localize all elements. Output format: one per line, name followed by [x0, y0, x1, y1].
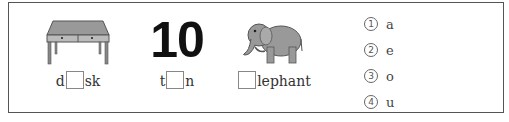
answer-blank[interactable]	[238, 71, 256, 89]
word-ten: tn	[122, 71, 232, 89]
choice-list: 1a 2e 3o 4u	[364, 11, 394, 115]
choice-u[interactable]: 4u	[364, 89, 394, 115]
word-desk: dsk	[23, 71, 133, 89]
choice-a[interactable]: 1a	[364, 11, 394, 37]
word-elephant: lephant	[219, 71, 329, 89]
question-box: dsk 10 tn lephant 1a 2e 3o 4u	[8, 2, 504, 113]
item-ten: 10 tn	[122, 3, 232, 112]
number-ten: 10	[122, 13, 232, 67]
answer-blank[interactable]	[166, 71, 184, 89]
choice-o[interactable]: 3o	[364, 63, 394, 89]
elephant-icon	[239, 17, 309, 67]
choice-e[interactable]: 2e	[364, 37, 394, 63]
item-desk: dsk	[23, 3, 133, 112]
item-elephant: lephant	[219, 3, 329, 112]
desk-icon	[43, 17, 113, 67]
answer-blank[interactable]	[66, 71, 84, 89]
